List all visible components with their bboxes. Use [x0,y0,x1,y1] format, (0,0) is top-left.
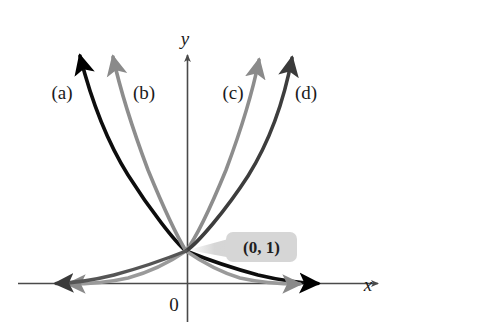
graph-canvas: (0, 1) (a) (b) (c) (d) x y 0 [0,0,492,334]
curve-label-a: (a) [51,82,72,104]
curve-label-c: (c) [222,82,243,104]
exponential-functions-figure: (0, 1) (a) (b) (c) (d) x y 0 [0,0,492,334]
point-label-text: (0, 1) [243,238,280,257]
x-axis-label: x [363,274,373,295]
curve-label-b: (b) [133,82,155,104]
origin-label: 0 [169,294,179,315]
y-axis-label: y [179,28,190,49]
curve-label-d: (d) [295,82,317,104]
